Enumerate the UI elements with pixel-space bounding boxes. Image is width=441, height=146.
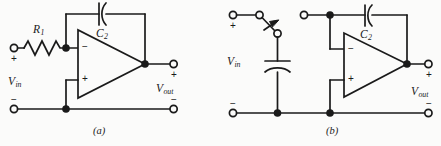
circuit-a-drawing [0, 0, 220, 146]
top-node-terminal-b [300, 11, 307, 18]
output-plus-terminal-a [170, 60, 177, 67]
output-minus-sign-a: − [171, 95, 177, 105]
output-minus-sign-b: − [426, 99, 432, 109]
junction-output-node-a [141, 60, 149, 68]
junction-ground-cap-b [274, 109, 282, 117]
label-vout-b: Vout [411, 86, 428, 99]
label-vout-a: Vout [156, 83, 173, 96]
op-amp-inverting-pin-label-b: − [348, 44, 354, 54]
input-plus-terminal-a [10, 44, 17, 51]
caption-a: (a) [93, 126, 105, 137]
op-amp-noninverting-pin-label-b: + [348, 74, 354, 84]
input-plus-terminal-b [229, 11, 236, 18]
output-plus-sign-b: + [426, 70, 432, 80]
output-plus-sign-a: + [171, 70, 177, 80]
resistor-r1-a [24, 41, 66, 55]
output-minus-terminal-a [170, 105, 177, 112]
op-amp-inverting-pin-label-a: − [82, 42, 88, 52]
subfigure-a: R1 C2 + − Vin + − Vout − + (a) [0, 0, 220, 146]
junction-ground-a [62, 105, 70, 113]
label-vin-a: Vin [8, 76, 22, 89]
label-c2-a: C2 [96, 28, 108, 41]
subfigure-b: + − Vin C2 − + + − Vout (b) [220, 0, 441, 146]
output-plus-terminal-b [425, 60, 432, 67]
op-amp-body-a [78, 30, 145, 98]
junction-output-node-b [403, 60, 411, 68]
input-minus-terminal-b [229, 109, 236, 116]
switch-throw-b [274, 30, 281, 37]
figure-canvas: R1 C2 + − Vin + − Vout − + (a) [0, 0, 441, 146]
output-minus-terminal-b [425, 109, 432, 116]
label-vin-b: Vin [227, 56, 241, 69]
input-minus-terminal-a [10, 105, 17, 112]
label-r1-a: R1 [33, 24, 44, 37]
junction-ground-noninv-b [326, 109, 334, 117]
input-minus-sign-b: − [230, 99, 236, 109]
caption-b: (b) [326, 126, 338, 137]
input-plus-sign-b: + [230, 21, 236, 31]
input-minus-sign-a: − [11, 95, 17, 105]
label-c2-b: C2 [360, 29, 372, 42]
op-amp-noninverting-pin-label-a: + [82, 74, 88, 84]
input-plus-sign-a: + [11, 54, 17, 64]
